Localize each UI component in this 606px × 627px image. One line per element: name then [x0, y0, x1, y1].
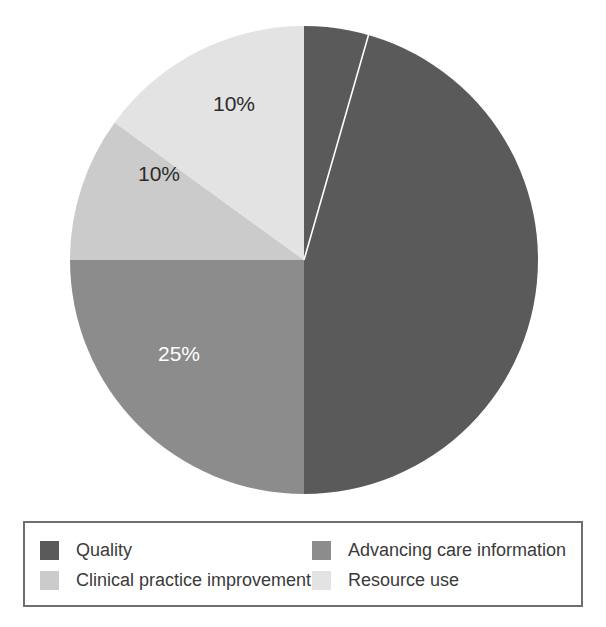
legend-label-advancing-care-information: Advancing care information — [348, 541, 566, 559]
pie-chart-figure: 50%25%10%10% Quality Advancing care info… — [0, 0, 606, 627]
pie-chart: 50%25%10%10% — [69, 25, 539, 495]
legend-label-quality: Quality — [76, 541, 132, 559]
pie-data-label: 25% — [158, 342, 200, 365]
legend-item-advancing-care-information: Advancing care information — [312, 535, 584, 565]
pie-slice — [70, 260, 304, 494]
pie-chart-svg: 50%25%10%10% — [69, 25, 539, 495]
legend-swatch-icon-quality — [40, 541, 59, 560]
legend-item-clinical-practice-improvement: Clinical practice improvement — [40, 565, 312, 595]
pie-slice — [304, 26, 538, 494]
legend-item-quality: Quality — [40, 535, 312, 565]
legend-label-resource-use: Resource use — [348, 571, 459, 589]
legend-swatch-icon-resource-use — [312, 571, 331, 590]
legend-label-clinical-practice-improvement: Clinical practice improvement — [76, 571, 311, 589]
legend-swatch-icon-advancing-care-information — [312, 541, 331, 560]
pie-data-label: 10% — [213, 92, 255, 115]
pie-data-label: 10% — [138, 162, 180, 185]
legend-grid: Quality Advancing care information Clini… — [40, 535, 570, 595]
legend-swatch-icon-clinical-practice-improvement — [40, 571, 59, 590]
chart-legend: Quality Advancing care information Clini… — [23, 521, 583, 607]
legend-item-resource-use: Resource use — [312, 565, 584, 595]
